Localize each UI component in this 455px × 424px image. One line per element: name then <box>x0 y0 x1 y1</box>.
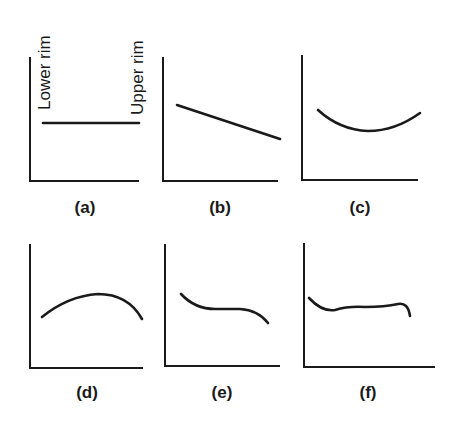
panel-e: (e) <box>165 244 280 402</box>
panel-e-axes <box>165 244 280 366</box>
panel-c-label: (c) <box>350 198 371 217</box>
panel-f: (f) <box>304 243 435 402</box>
panel-b: (b) <box>163 57 280 217</box>
panel-e-label: (e) <box>212 383 233 402</box>
panel-c: (c) <box>302 55 420 217</box>
panel-f-curve <box>309 298 410 316</box>
panel-a: Lower rim Upper rim (a) <box>30 35 147 217</box>
panel-c-curve <box>318 110 420 131</box>
panel-f-axes <box>304 243 435 367</box>
lower-rim-label: Lower rim <box>35 35 54 110</box>
panel-d: (d) <box>30 244 143 402</box>
panel-e-curve <box>181 294 268 323</box>
upper-rim-label: Upper rim <box>128 40 147 115</box>
profile-diagram: Lower rim Upper rim (a) (b) (c) (d) (e) … <box>0 0 455 424</box>
panel-d-label: (d) <box>76 383 98 402</box>
panel-a-label: (a) <box>75 198 96 217</box>
panel-b-curve <box>177 105 280 139</box>
panel-d-axes <box>30 244 143 368</box>
panel-f-label: (f) <box>360 383 377 402</box>
panel-c-axes <box>302 55 418 180</box>
panel-d-curve <box>42 294 142 319</box>
panel-b-label: (b) <box>209 198 231 217</box>
